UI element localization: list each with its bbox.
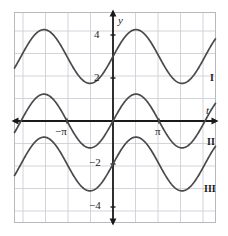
sine-curves-figure: 4 2 −2 −4 −π π y t I II III <box>0 0 228 236</box>
plot-canvas <box>0 0 228 236</box>
x-tick-label-pi: π <box>155 126 161 137</box>
y-tick-label-neg-4: −4 <box>89 200 101 211</box>
curve-label-i: I <box>210 73 214 83</box>
y-tick-label-2: 2 <box>94 72 100 83</box>
curve-label-ii: II <box>207 137 215 147</box>
x-axis-label: t <box>206 105 209 116</box>
curve-label-iii: III <box>204 184 216 194</box>
y-axis-label: y <box>118 15 123 26</box>
y-tick-label-neg-2: −2 <box>89 157 101 168</box>
x-tick-label-neg-pi: −π <box>55 126 67 137</box>
y-tick-label-4: 4 <box>94 29 100 40</box>
